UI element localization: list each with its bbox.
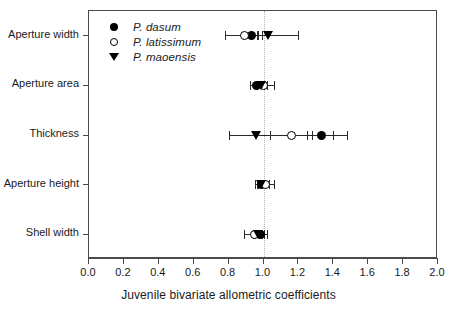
legend-item-label: P. latissimum xyxy=(125,36,201,48)
data-point-open-circle xyxy=(287,131,296,140)
x-axis-tick-label: 1.8 xyxy=(394,266,409,278)
data-point-triangle-down xyxy=(256,81,266,90)
x-axis-tick xyxy=(297,258,298,264)
y-axis-tick xyxy=(83,135,89,136)
error-bar-cap xyxy=(244,230,245,239)
legend-item-p-dasum: P. dasum xyxy=(103,19,201,34)
error-bar-cap xyxy=(250,81,251,90)
error-bar-cap xyxy=(312,131,313,140)
data-point-open-circle xyxy=(240,31,249,40)
error-bar-cap xyxy=(307,131,308,140)
error-bar-cap xyxy=(270,131,271,140)
x-axis-tick xyxy=(367,258,368,264)
x-axis-tick-label: 0.4 xyxy=(150,266,165,278)
error-bar-cap xyxy=(225,31,226,40)
allometric-coefficients-figure: Aperture widthAperture areaThicknessAper… xyxy=(0,0,457,314)
error-bar-cap xyxy=(258,31,259,40)
data-point-triangle-down xyxy=(263,31,273,40)
legend-item-label: P. maoensis xyxy=(125,51,196,63)
legend-item-p-maoensis: P. maoensis xyxy=(103,49,201,64)
x-axis-tick xyxy=(437,258,438,264)
legend: P. dasumP. latissimumP. maoensis xyxy=(103,19,201,64)
y-axis-tick-label: Aperture width xyxy=(8,28,79,40)
marker-glyph xyxy=(110,23,118,31)
plot-area: Aperture widthAperture areaThicknessAper… xyxy=(88,10,437,258)
y-axis-tick xyxy=(83,35,89,36)
x-axis: 0.00.20.40.60.81.01.21.41.61.82.0 xyxy=(88,258,437,259)
open-circle-icon xyxy=(103,38,125,46)
error-bar-cap xyxy=(347,131,348,140)
error-bar-cap xyxy=(274,81,275,90)
y-axis-tick xyxy=(83,184,89,185)
y-axis-tick xyxy=(83,234,89,235)
x-axis-tick-label: 0.0 xyxy=(80,266,95,278)
y-axis-tick-label: Thickness xyxy=(29,127,79,139)
x-axis-tick-label: 1.2 xyxy=(290,266,305,278)
error-bar-cap xyxy=(257,31,258,40)
y-axis-tick-label: Aperture area xyxy=(12,77,79,89)
x-axis-tick xyxy=(88,258,89,264)
x-axis-title: Juvenile bivariate allometric coefficien… xyxy=(0,288,457,302)
error-bar-cap xyxy=(274,180,275,189)
error-bar-cap xyxy=(333,131,334,140)
x-axis-tick-label: 1.4 xyxy=(325,266,340,278)
x-axis-tick-label: 0.8 xyxy=(220,266,235,278)
filled-circle-icon xyxy=(103,23,125,31)
x-axis-tick xyxy=(123,258,124,264)
x-axis-tick xyxy=(158,258,159,264)
y-axis-tick xyxy=(83,85,89,86)
x-axis-tick xyxy=(193,258,194,264)
data-point-triangle-down xyxy=(253,230,263,239)
x-axis-tick-label: 0.6 xyxy=(185,266,200,278)
data-point-triangle-down xyxy=(251,131,261,140)
error-bar-cap xyxy=(267,230,268,239)
marker-glyph xyxy=(110,38,118,46)
x-axis-tick-label: 2.0 xyxy=(429,266,444,278)
x-axis-tick xyxy=(332,258,333,264)
x-axis-tick xyxy=(263,258,264,264)
data-point-triangle-down xyxy=(256,180,266,189)
y-axis-tick-label: Aperture height xyxy=(4,177,79,189)
x-axis-tick-label: 1.6 xyxy=(360,266,375,278)
error-bar-cap xyxy=(298,31,299,40)
legend-item-label: P. dasum xyxy=(125,21,181,33)
y-axis-tick-label: Shell width xyxy=(26,226,79,238)
x-axis-tick xyxy=(402,258,403,264)
x-axis-tick-label: 1.0 xyxy=(255,266,270,278)
legend-item-p-latissimum: P. latissimum xyxy=(103,34,201,49)
data-point-filled-circle xyxy=(317,131,326,140)
x-axis-tick-label: 0.2 xyxy=(115,266,130,278)
marker-glyph xyxy=(109,53,119,61)
triangle-down-icon xyxy=(103,53,125,61)
x-axis-tick xyxy=(228,258,229,264)
error-bar-cap xyxy=(229,131,230,140)
